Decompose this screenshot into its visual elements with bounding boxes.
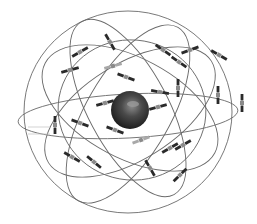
satellite-icon xyxy=(53,116,57,134)
satellite-icon xyxy=(144,159,156,177)
satellite-icon xyxy=(210,49,228,61)
earth-icon xyxy=(111,91,149,129)
gps-constellation-diagram xyxy=(0,0,257,224)
satellite-icon xyxy=(216,86,220,104)
satellite-icon xyxy=(71,118,89,128)
satellite-icon xyxy=(86,155,102,170)
satellite-icon xyxy=(149,103,167,112)
satellite-icon xyxy=(176,79,180,97)
satellite-icon xyxy=(117,72,135,82)
satellite-icon xyxy=(104,62,122,71)
satellite-icon xyxy=(61,66,79,75)
satellite-icon xyxy=(132,135,150,145)
faint-labels xyxy=(28,127,50,134)
satellite-icon xyxy=(151,88,169,95)
satellite-icon xyxy=(104,33,116,51)
satellite-icon xyxy=(240,94,244,112)
earth-globe xyxy=(111,91,149,129)
satellite-icon xyxy=(71,46,89,58)
